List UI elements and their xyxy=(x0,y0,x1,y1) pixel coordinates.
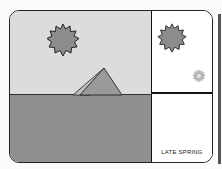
scene-panel xyxy=(10,11,151,162)
diagram-frame: LATE SPRING xyxy=(9,10,213,163)
edge-strip xyxy=(218,14,221,164)
ground xyxy=(10,94,151,162)
sun-large-icon xyxy=(157,23,187,53)
season-panel: LATE SPRING xyxy=(152,11,212,162)
sun-small-icon xyxy=(192,69,206,83)
season-divider xyxy=(152,92,212,94)
season-label: LATE SPRING xyxy=(152,149,212,155)
sun-icon xyxy=(46,23,80,57)
pyramid-icon xyxy=(70,66,126,96)
